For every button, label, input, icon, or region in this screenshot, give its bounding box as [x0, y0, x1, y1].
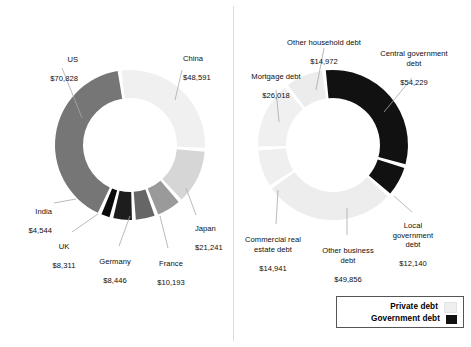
slice-label-other-business-debt: Other business debt $49,856	[312, 237, 384, 293]
slice-label-germany: Germany $8,446	[88, 248, 142, 295]
leader-line	[54, 199, 76, 203]
legend-item-government-debt: Government debt	[343, 313, 457, 325]
legend-item-private-debt: Private debt	[343, 301, 457, 313]
chart-legend: Private debt Government debt	[336, 296, 464, 328]
slice-label-other-household-debt: Other household debt $14,972	[269, 29, 379, 76]
leader-line	[186, 188, 196, 215]
slice-label-india: India $4,544	[4, 198, 52, 245]
legend-swatch-government-debt	[446, 315, 457, 324]
slice-label-central-government-debt: Central government debt $54,229	[379, 40, 449, 96]
legend-swatch-private-debt	[444, 302, 457, 313]
leader-line	[119, 216, 130, 246]
leader-line	[160, 216, 168, 248]
slice-label-commercial-real-estate-debt: Commercial real estate debt $14,941	[235, 226, 311, 282]
slice-label-france: France $10,193	[145, 250, 197, 297]
donut-slice-other-business-debt[interactable]	[272, 172, 388, 220]
debt-by-country-panel: US $70,828 China $48,591 Japan $21,241 F…	[0, 0, 233, 347]
leader-line	[276, 190, 278, 224]
debt-by-type-panel: Central government debt $54,229 Local go…	[234, 0, 471, 347]
legend-label-private-debt: Private debt	[390, 302, 438, 312]
slice-label-us: US $70,828	[14, 46, 78, 93]
chart-page: US $70,828 China $48,591 Japan $21,241 F…	[0, 0, 471, 347]
legend-label-government-debt: Government debt	[371, 314, 440, 324]
slice-label-china: China $48,591	[183, 45, 233, 92]
leader-line	[394, 196, 412, 212]
leader-line	[72, 214, 98, 232]
donut-slice-uk[interactable]	[113, 191, 132, 220]
slice-label-local-government-debt: Local government debt $12,140	[382, 212, 444, 278]
